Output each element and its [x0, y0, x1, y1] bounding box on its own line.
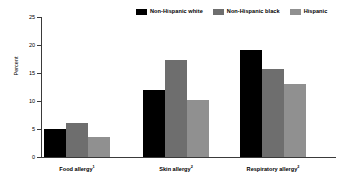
- y-axis-tick-mark: [37, 45, 41, 46]
- footnote-marker: 2: [191, 165, 193, 169]
- x-axis-group-label: Respiratory allergy2: [213, 166, 333, 172]
- y-axis-tick-mark: [37, 73, 41, 74]
- footnote-marker: 1: [93, 165, 95, 169]
- bar: [262, 69, 284, 157]
- bar: [165, 60, 187, 157]
- bar: [143, 90, 165, 157]
- plot-area: Percent 0510152025 Food allergy1Skin all…: [0, 0, 345, 185]
- bar-chart: Non-Hispanic white Non-Hispanic black Hi…: [0, 0, 345, 185]
- y-axis-tick-mark: [37, 129, 41, 130]
- footnote-marker: 2: [297, 165, 299, 169]
- y-axis-tick-mark: [37, 157, 41, 158]
- bar: [187, 100, 209, 157]
- y-axis-tick-mark: [37, 17, 41, 18]
- x-axis-group-label-text: Food allergy: [59, 166, 92, 172]
- x-axis-group-label-text: Respiratory allergy: [247, 166, 298, 172]
- bar: [88, 137, 110, 157]
- y-axis-tick-mark: [37, 101, 41, 102]
- bars-layer: Food allergy1Skin allergy2Respiratory al…: [0, 0, 345, 185]
- bar: [284, 84, 306, 157]
- x-axis-group-label-text: Skin allergy: [159, 166, 190, 172]
- bar: [44, 129, 66, 157]
- bar: [240, 50, 262, 157]
- bar: [66, 123, 88, 157]
